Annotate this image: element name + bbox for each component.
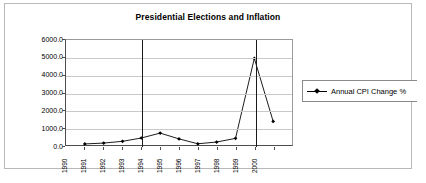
y-axis-tick-label: 3000.0 (42, 89, 63, 96)
gridline (66, 58, 292, 59)
data-point-marker (102, 141, 106, 145)
legend-line-diamond-marker-icon (307, 87, 327, 96)
y-axis-tick-label: 1000.0 (42, 125, 63, 132)
y-axis-tick-labels: 0.01000.02000.03000.04000.05000.06000.0 (17, 34, 63, 151)
x-axis-tick-label: 2000 (251, 147, 277, 173)
gridline (66, 129, 292, 130)
data-point-marker (158, 131, 162, 135)
data-point-marker (234, 136, 238, 140)
plot-area (65, 39, 293, 146)
data-point-marker (215, 140, 219, 144)
legend-item-label: Annual CPI Change % (331, 87, 406, 96)
election-marker-line (142, 40, 143, 147)
series-line (85, 58, 273, 144)
y-axis-tick-label: 6000.0 (42, 36, 63, 43)
data-point-marker (83, 142, 87, 146)
y-axis-tick-label: 5000.0 (42, 53, 63, 60)
data-point-marker (271, 120, 275, 124)
gridline (66, 76, 292, 77)
chart-legend: Annual CPI Change % (302, 80, 417, 102)
y-axis-tick-label: 4000.0 (42, 71, 63, 78)
chart-frame: Presidential Elections and Inflation 0.0… (4, 3, 412, 169)
election-marker-line (256, 40, 257, 147)
data-point-marker (196, 142, 200, 146)
data-point-marker (177, 137, 181, 141)
y-axis-tick-label: 2000.0 (42, 107, 63, 114)
gridline (66, 94, 292, 95)
gridline (66, 111, 292, 112)
x-axis-tick-labels: 1990199119921993199419951996199719981999… (65, 147, 293, 173)
data-point-marker (121, 139, 125, 143)
chart-title: Presidential Elections and Inflation (5, 12, 411, 22)
x-axis-tick-mark (274, 147, 275, 150)
